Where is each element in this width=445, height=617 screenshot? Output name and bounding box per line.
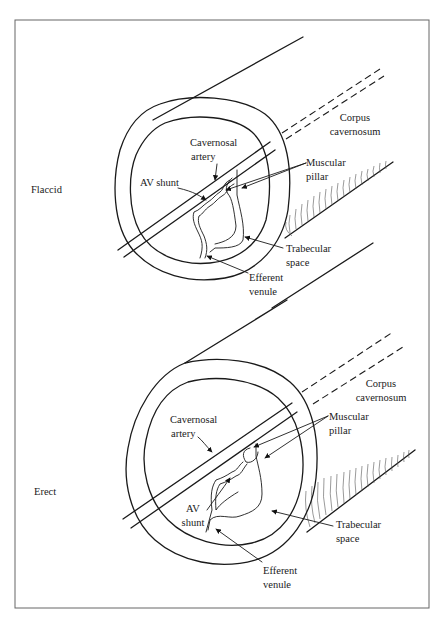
av-shunt-arrow [207, 478, 230, 510]
cavernosal-label-line2: artery [190, 150, 237, 164]
av-label-line1: AV [176, 502, 210, 516]
efferent-label-line2: venule [263, 578, 297, 592]
cavernosal-artery-label: Cavernosal artery [190, 136, 237, 164]
efferent-venule-label: Efferent venule [263, 564, 297, 592]
state-label-erect: Erect [34, 485, 56, 499]
trabecular-arrow [245, 237, 283, 248]
muscular-label-line2: pillar [329, 424, 369, 438]
muscular-pillar-label: Muscular pillar [306, 156, 346, 184]
corpus-label-line1: Corpus [320, 111, 390, 125]
muscular-label-line1: Muscular [306, 156, 346, 170]
efferent-label-line2: venule [249, 285, 283, 299]
efferent-venule-label: Efferent venule [249, 271, 283, 299]
corpus-cavernosum-diagram: Flaccid Corpus cavernosum Cavernosal art… [0, 0, 445, 617]
efferent-venule-arrow [216, 529, 262, 562]
corpus-label-line2: cavernosum [346, 391, 416, 405]
efferent-label-line1: Efferent [249, 271, 283, 285]
state-label-flaccid: Flaccid [31, 183, 62, 197]
cavernosal-label-line1: Cavernosal [190, 136, 237, 150]
av-label-line2: shunt [176, 516, 210, 530]
trabecular-label-line1: Trabecular [336, 518, 381, 532]
cavernosal-arrow [215, 164, 217, 180]
trabecular-space-label: Trabecular space [336, 518, 381, 546]
efferent-venule-arrow [207, 256, 248, 273]
corpus-cavernosum-label: Corpus cavernosum [320, 111, 390, 139]
cylinder-top-edge [185, 300, 287, 363]
corpus-label-line2: cavernosum [320, 125, 390, 139]
inner-tunica-circle [144, 379, 303, 546]
trabecular-label-line1: Trabecular [286, 242, 331, 256]
av-shunt-label: AV shunt [176, 502, 210, 530]
av-shunt-label: AV shunt [140, 176, 179, 190]
flaccid-panel [115, 37, 393, 308]
cavernosal-label-line2: artery [170, 427, 217, 441]
cylinder-top-edge [153, 37, 303, 120]
muscular-pillar-label: Muscular pillar [329, 410, 369, 438]
corpus-label-line1: Corpus [346, 377, 416, 391]
muscular-label-line1: Muscular [329, 410, 369, 424]
muscular-label-line2: pillar [306, 170, 346, 184]
muscular-pillar-arrow-2 [265, 416, 328, 458]
cavernosal-label-line1: Cavernosal [170, 413, 217, 427]
cavernosal-artery-lower [124, 150, 275, 257]
efferent-label-line1: Efferent [263, 564, 297, 578]
cavernosal-artery-label: Cavernosal artery [170, 413, 217, 441]
corpus-cavernosum-label: Corpus cavernosum [346, 377, 416, 405]
trabecular-space-label: Trabecular space [286, 242, 331, 270]
av-shunt-vessel-b [216, 464, 247, 510]
hatching [306, 450, 410, 527]
trabecular-label-line2: space [286, 256, 331, 270]
trabecular-wall [208, 444, 262, 530]
trabecular-label-line2: space [336, 532, 381, 546]
